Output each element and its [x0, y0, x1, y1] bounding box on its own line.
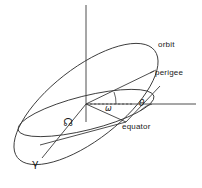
ascending-node-symbol-label: ☊ [63, 116, 73, 129]
omega-arc [114, 92, 116, 104]
diagram-canvas [0, 0, 202, 188]
perigee-label: perigee [155, 68, 183, 77]
argument-of-perigee-symbol-label: ω [105, 104, 112, 113]
vernal-equinox-line [42, 104, 86, 158]
orbit-label: orbit [158, 40, 175, 49]
vernal-equinox-symbol-label: γ [32, 157, 39, 170]
true-anomaly-symbol-label: θ [139, 98, 145, 108]
orbital-elements-diagram: orbit perigee equator ω θ ☊ γ [0, 0, 202, 188]
equator-node-chord [40, 122, 126, 145]
equator-label: equator [122, 122, 151, 131]
